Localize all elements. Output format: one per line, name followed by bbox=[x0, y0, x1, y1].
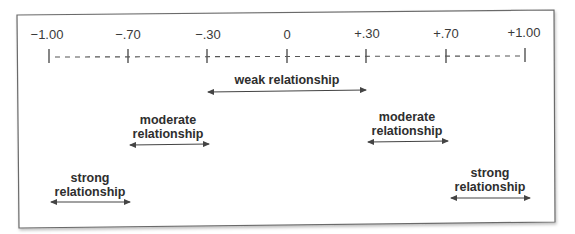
strong-positive-range-label: strong relationship bbox=[455, 166, 526, 194]
strong-negative-label-line2: relationship bbox=[55, 185, 126, 199]
moderate-positive-label-line2: relationship bbox=[372, 124, 443, 138]
strong-negative-range-label: strong relationship bbox=[55, 171, 126, 199]
moderate-positive-label-line1: moderate bbox=[372, 110, 443, 124]
moderate-positive-range-label: moderate relationship bbox=[372, 110, 443, 138]
tick-label-neg-1: −1.00 bbox=[31, 27, 64, 42]
moderate-negative-range-label: moderate relationship bbox=[133, 113, 204, 141]
weak-range-label-line1: weak relationship bbox=[235, 73, 340, 87]
tick-label-zero: 0 bbox=[283, 27, 290, 42]
tick-label-neg-030: −.30 bbox=[195, 27, 221, 42]
tick-label-pos-030: +.30 bbox=[354, 26, 380, 41]
tick-label-pos-1: +1.00 bbox=[508, 25, 541, 40]
moderate-negative-label-line1: moderate bbox=[133, 113, 204, 127]
strong-positive-label-line1: strong bbox=[455, 166, 526, 180]
diagram-frame: −1.00 −.70 −.30 0 +.30 +.70 +1.00 weak r… bbox=[0, 0, 575, 234]
strong-positive-label-line2: relationship bbox=[455, 180, 526, 194]
tick-label-pos-070: +.70 bbox=[433, 26, 459, 41]
moderate-negative-label-line2: relationship bbox=[133, 127, 204, 141]
tick-label-neg-070: −.70 bbox=[115, 27, 141, 42]
strong-negative-label-line1: strong bbox=[55, 171, 126, 185]
weak-range-label: weak relationship bbox=[235, 73, 340, 87]
